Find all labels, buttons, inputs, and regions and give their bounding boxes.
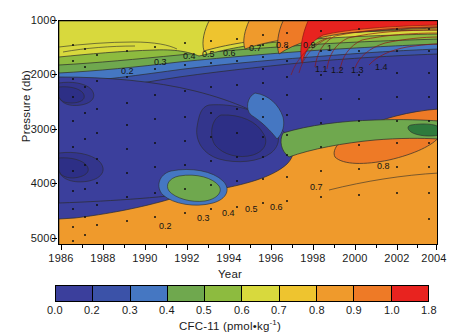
- contour-label: 0.3: [154, 57, 167, 67]
- x-tick-mark: [397, 245, 398, 250]
- y-tick-mark: [52, 129, 57, 130]
- contour-label: 1.4: [375, 62, 388, 72]
- x-tick-mark: [229, 245, 230, 250]
- colorbar-tick-label: 0.6: [222, 304, 262, 316]
- y-axis-title: Pressure (db): [20, 36, 32, 176]
- colorbar-segment: [392, 286, 428, 301]
- contour-label: 0.6: [270, 202, 283, 212]
- colorbar-segment: [242, 286, 279, 301]
- y-tick-label: 4000: [0, 178, 56, 189]
- colorbar-title-exponent: -1: [269, 318, 277, 327]
- colorbar-tick-label: 0.7: [259, 304, 299, 316]
- contour-label: 0.3: [197, 213, 210, 223]
- colorbar-tick-label: 0.2: [72, 304, 112, 316]
- colorbar-tick-label: 0.5: [184, 304, 224, 316]
- contour-label: 0.2: [159, 221, 172, 231]
- x-tick-minor: [82, 245, 83, 248]
- contour-label: 0.4: [183, 51, 196, 61]
- colorbar-tick-label: 0.4: [147, 304, 187, 316]
- colorbar-title: CFC-11 (pmol•kg-1): [0, 318, 460, 332]
- x-tick-label: 1990: [125, 252, 165, 264]
- colorbar-segment: [354, 286, 391, 301]
- contour-plot: 0.2 0.3 0.4 0.5 0.6 0.7 0.8 0.9 1 1.1 1.…: [58, 20, 438, 245]
- x-tick-label: 1994: [209, 252, 249, 264]
- x-tick-label: 2002: [377, 252, 417, 264]
- contour-canvas: 0.2 0.3 0.4 0.5 0.6 0.7 0.8 0.9 1 1.1 1.…: [59, 21, 438, 245]
- contour-label: 0.9: [303, 40, 316, 50]
- x-tick-minor: [292, 245, 293, 248]
- x-tick-minor: [166, 245, 167, 248]
- contour-label: 0.8: [377, 161, 390, 171]
- colorbar-segment: [205, 286, 242, 301]
- x-tick-label: 1986: [41, 252, 81, 264]
- contour-label: 0.6: [223, 48, 236, 58]
- contour-label: 0.5: [245, 204, 258, 214]
- colorbar-tick-label: 1.8: [409, 304, 449, 316]
- y-tick-label: 1000: [0, 15, 56, 26]
- contour-label: 0.8: [276, 40, 289, 50]
- y-tick-mark: [52, 20, 57, 21]
- y-tick-label: 5000: [0, 233, 56, 244]
- colorbar-tick-label: 0.3: [110, 304, 150, 316]
- x-tick-minor: [208, 245, 209, 248]
- x-tick-label: 1992: [167, 252, 207, 264]
- x-tick-mark: [187, 245, 188, 250]
- contour-label: 1: [327, 43, 332, 53]
- x-tick-label: 2004: [414, 252, 454, 264]
- colorbar-segment: [56, 286, 93, 301]
- x-tick-label: 1988: [83, 252, 123, 264]
- x-tick-mark: [313, 245, 314, 250]
- contour-label: 1.3: [351, 65, 364, 75]
- x-tick-minor: [124, 245, 125, 248]
- x-tick-mark: [355, 245, 356, 250]
- colorbar-title-tail: ): [277, 320, 281, 332]
- contour-label: 1.2: [331, 65, 344, 75]
- x-tick-label: 1998: [293, 252, 333, 264]
- x-tick-minor: [250, 245, 251, 248]
- contour-label: 0.5: [202, 49, 215, 59]
- contour-label: 0.7: [249, 43, 262, 53]
- colorbar-tick-label: 0.8: [297, 304, 337, 316]
- contour-label: 0.7: [310, 182, 323, 192]
- colorbar-segment: [168, 286, 205, 301]
- colorbar-tick-label: 0.9: [334, 304, 374, 316]
- colorbar: [55, 285, 429, 302]
- x-axis-title: Year: [0, 268, 460, 280]
- colorbar-title-main: CFC-11 (pmol•kg: [179, 320, 270, 332]
- colorbar-tick-label: 0.0: [35, 304, 75, 316]
- y-tick-mark: [52, 74, 57, 75]
- x-tick-mark: [271, 245, 272, 250]
- x-tick-label: 2000: [335, 252, 375, 264]
- colorbar-segment: [280, 286, 317, 301]
- x-tick-minor: [376, 245, 377, 248]
- x-tick-mark: [103, 245, 104, 250]
- figure-root: 1000 2000 3000 4000 5000 Pressure (db): [0, 0, 460, 335]
- x-tick-mark: [61, 245, 62, 250]
- x-tick-label: 1996: [251, 252, 291, 264]
- x-tick-mark: [436, 245, 437, 250]
- x-tick-minor: [417, 245, 418, 248]
- y-tick-mark: [52, 238, 57, 239]
- contour-label: 0.4: [222, 208, 235, 218]
- x-tick-mark: [145, 245, 146, 250]
- colorbar-tick-label: 1.0: [372, 304, 412, 316]
- colorbar-segment: [131, 286, 168, 301]
- y-tick-mark: [52, 183, 57, 184]
- x-tick-minor: [334, 245, 335, 248]
- contour-label: 1.1: [315, 64, 328, 74]
- contour-label: 0.2: [121, 66, 134, 76]
- colorbar-segment: [317, 286, 354, 301]
- colorbar-segment: [93, 286, 130, 301]
